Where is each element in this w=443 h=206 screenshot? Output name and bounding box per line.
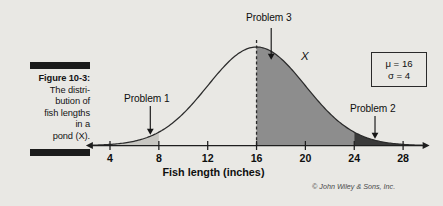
sigma-value: σ = 4: [388, 70, 410, 82]
x-tick-label: 8: [156, 152, 162, 164]
label-problem-2: Problem 2: [350, 103, 396, 114]
copyright-notice: © John Wiley & Sons, Inc.: [312, 182, 395, 191]
axis-arrow-left: [86, 142, 93, 149]
x-tick-label: 16: [251, 152, 263, 164]
x-tick-label: 20: [299, 152, 311, 164]
mu-value: μ = 16: [385, 58, 412, 70]
x-tick-label: 4: [107, 152, 113, 164]
x-axis-title-text: Fish length (inches): [163, 166, 265, 178]
label-random-variable-x: X: [301, 50, 309, 62]
x-tick-label: 12: [202, 152, 214, 164]
parameters-box: μ = 16 σ = 4: [371, 52, 427, 87]
problem2-arrow: [372, 116, 379, 139]
label-problem-1: Problem 1: [124, 93, 170, 104]
figure-10-3: Figure 10-3: The distri- bution of fish …: [0, 0, 443, 206]
x-tick-label: 28: [397, 152, 409, 164]
problem3-arrow: [268, 28, 275, 60]
x-axis-title: Fish length (inches): [0, 166, 443, 178]
label-problem-3: Problem 3: [246, 12, 292, 23]
x-tick-label: 24: [348, 152, 360, 164]
problem1-arrow: [147, 106, 154, 135]
axis-arrow-right: [423, 142, 430, 149]
